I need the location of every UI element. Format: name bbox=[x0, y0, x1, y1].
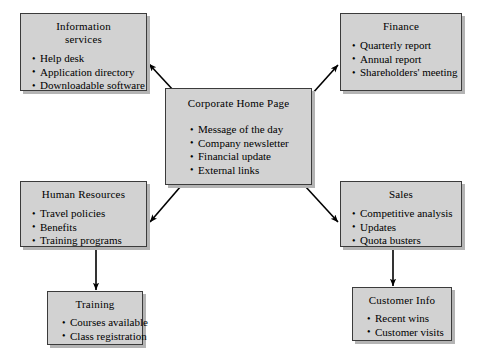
node-item-list: Recent wins Customer visits bbox=[353, 312, 451, 339]
node-item-list: Competitive analysis Updates Quota buste… bbox=[341, 207, 461, 248]
list-item: Downloadable software bbox=[32, 79, 146, 93]
list-item: Recent wins bbox=[367, 312, 451, 326]
node-finance[interactable]: Finance Quarterly report Annual report S… bbox=[340, 13, 462, 91]
node-information-services[interactable]: Information services Help desk Applicati… bbox=[20, 13, 147, 91]
diagram-canvas: Information services Help desk Applicati… bbox=[0, 0, 480, 361]
list-item: Message of the day bbox=[190, 123, 311, 137]
list-item: Travel policies bbox=[32, 207, 146, 221]
connector-center-to-human-resources bbox=[150, 186, 181, 222]
node-corporate-home-page[interactable]: Corporate Home Page Message of the day C… bbox=[165, 88, 312, 185]
list-item: Shareholders' meeting bbox=[352, 66, 461, 80]
node-item-list: Courses available Class registration bbox=[48, 316, 142, 343]
list-item: Quarterly report bbox=[352, 39, 461, 53]
list-item: Annual report bbox=[352, 53, 461, 67]
connector-center-to-sales bbox=[305, 186, 338, 222]
node-title: Customer Info bbox=[353, 294, 451, 307]
list-item: Quota busters bbox=[352, 234, 461, 248]
list-item: Benefits bbox=[32, 221, 146, 235]
node-human-resources[interactable]: Human Resources Travel policies Benefits… bbox=[20, 181, 147, 247]
node-item-list: Travel policies Benefits Training progra… bbox=[21, 207, 146, 248]
list-item: Help desk bbox=[32, 52, 146, 66]
node-customer-info[interactable]: Customer Info Recent wins Customer visit… bbox=[352, 287, 452, 341]
node-item-list: Message of the day Company newsletter Fi… bbox=[166, 123, 311, 177]
list-item: Competitive analysis bbox=[352, 207, 461, 221]
node-training[interactable]: Training Courses available Class registr… bbox=[47, 291, 143, 345]
list-item: Financial update bbox=[190, 150, 311, 164]
list-item: Application directory bbox=[32, 66, 146, 80]
node-title: Corporate Home Page bbox=[166, 97, 311, 110]
list-item: Training programs bbox=[32, 234, 146, 248]
node-title: Finance bbox=[341, 20, 461, 33]
node-title: Sales bbox=[341, 188, 461, 201]
node-item-list: Help desk Application directory Download… bbox=[21, 52, 146, 93]
list-item: Class registration bbox=[62, 330, 142, 344]
node-title: Training bbox=[48, 298, 142, 311]
node-sales[interactable]: Sales Competitive analysis Updates Quota… bbox=[340, 181, 462, 247]
list-item: Customer visits bbox=[367, 326, 451, 340]
node-title: Human Resources bbox=[21, 188, 146, 201]
list-item: Company newsletter bbox=[190, 137, 311, 151]
list-item: External links bbox=[190, 164, 311, 178]
node-item-list: Quarterly report Annual report Sharehold… bbox=[341, 39, 461, 80]
node-title: Information services bbox=[21, 20, 146, 46]
list-item: Updates bbox=[352, 221, 461, 235]
list-item: Courses available bbox=[62, 316, 142, 330]
